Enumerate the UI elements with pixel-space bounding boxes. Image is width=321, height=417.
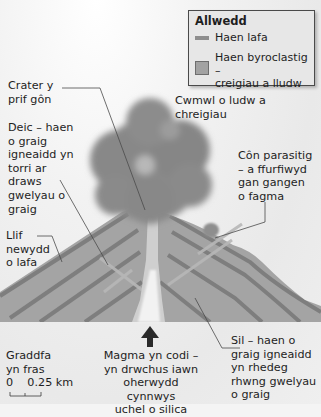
label-magma: Magma yn codi – yn drwchus iawn oherwydd… (98, 349, 204, 417)
label-dyke: Deic – haen o graig igneaidd yn torri ar… (8, 121, 74, 216)
label-parasitic-cone: Côn parasitig – a ffurfiwyd gan gangen o… (238, 149, 312, 203)
pyroclastic-layer-swatch (195, 61, 209, 75)
lava-layer-swatch (195, 36, 209, 40)
label-scale-title: Graddfa yn fras (6, 349, 51, 376)
legend: Allwedd Haen lafa Haen byroclastig – cre… (188, 10, 315, 86)
label-crater: Crater y prif gôn (8, 79, 53, 106)
label-ash-cloud: Cwmwl o ludw a chreigiau (175, 94, 321, 121)
parasitic-cone-leader (215, 202, 265, 238)
legend-item-pyroclastic: Haen byroclastig – creigiau a lludw (215, 51, 314, 90)
scale-bar (10, 392, 41, 396)
label-sill: Sil – haen o graig igneaidd yn rhedeg rh… (231, 334, 316, 402)
legend-title: Allwedd (195, 14, 247, 28)
label-lava-flow: Llif newydd o lafa (6, 229, 50, 270)
magma-rising-arrow (141, 326, 159, 347)
parasitic-cone-puff (203, 223, 219, 237)
label-scale-values: 0 0.25 km (6, 376, 73, 390)
legend-item-lava: Haen lafa (215, 31, 268, 44)
